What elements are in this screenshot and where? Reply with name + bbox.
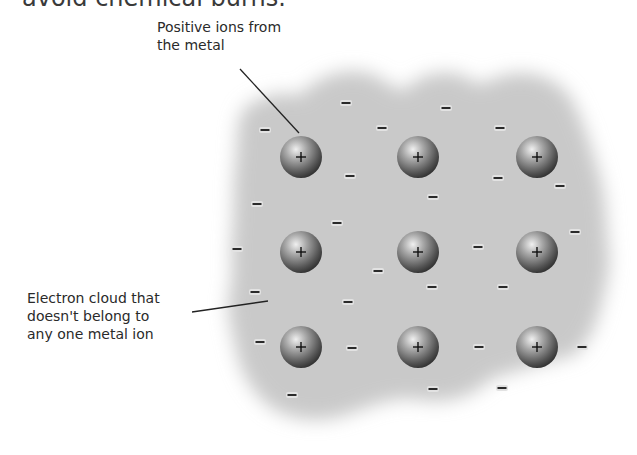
electron-minus-icon bbox=[494, 125, 506, 131]
electron-minus-icon bbox=[251, 201, 263, 207]
positive-ion bbox=[516, 136, 558, 178]
positive-ion bbox=[397, 136, 439, 178]
ions-label: Positive ions from the metal bbox=[157, 18, 281, 54]
ions-label-line-1: Positive ions from bbox=[157, 18, 281, 36]
cloud-label-line-2: doesn't belong to bbox=[27, 307, 160, 325]
positive-ion bbox=[280, 326, 322, 368]
electron-minus-icon bbox=[569, 229, 581, 235]
electron-minus-icon bbox=[427, 194, 439, 200]
positive-ion bbox=[280, 136, 322, 178]
electron-minus-icon bbox=[331, 220, 343, 226]
electron-minus-icon bbox=[372, 268, 384, 274]
positive-ion bbox=[516, 326, 558, 368]
electron-minus-icon bbox=[254, 339, 266, 345]
metallic-bonding-diagram bbox=[0, 0, 637, 455]
electron-minus-icon bbox=[249, 289, 261, 295]
electron-minus-icon bbox=[472, 244, 484, 250]
electron-minus-icon bbox=[496, 385, 508, 391]
cloud-label-line-3: any one metal ion bbox=[27, 325, 160, 343]
electron-minus-icon bbox=[554, 183, 566, 189]
electron-minus-icon bbox=[340, 100, 352, 106]
electron-minus-icon bbox=[376, 125, 388, 131]
positive-ion bbox=[280, 231, 322, 273]
electron-minus-icon bbox=[342, 299, 354, 305]
positive-ion bbox=[397, 231, 439, 273]
cloud-label: Electron cloud that doesn't belong to an… bbox=[27, 289, 160, 343]
electron-minus-icon bbox=[344, 173, 356, 179]
positive-ion bbox=[516, 231, 558, 273]
positive-ion bbox=[397, 326, 439, 368]
electron-minus-icon bbox=[231, 246, 243, 252]
electron-minus-icon bbox=[346, 345, 358, 351]
electron-minus-icon bbox=[492, 175, 504, 181]
electron-minus-icon bbox=[259, 127, 271, 133]
cloud-label-line-1: Electron cloud that bbox=[27, 289, 160, 307]
ions-label-line-2: the metal bbox=[157, 36, 281, 54]
electron-minus-icon bbox=[497, 284, 509, 290]
electron-minus-icon bbox=[427, 386, 439, 392]
electron-minus-icon bbox=[286, 392, 298, 398]
electron-minus-icon bbox=[576, 344, 588, 350]
electron-minus-icon bbox=[473, 344, 485, 350]
electron-minus-icon bbox=[426, 284, 438, 290]
electron-minus-icon bbox=[440, 105, 452, 111]
